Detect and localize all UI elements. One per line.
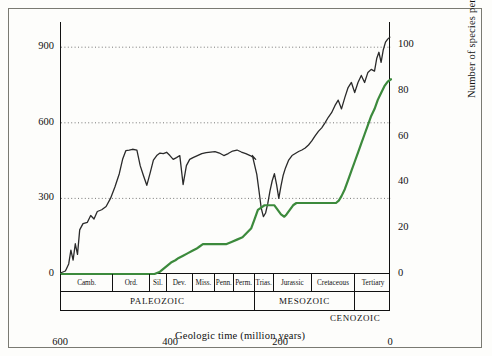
y-right-tick-100: 100 <box>398 38 414 49</box>
data-series-layer <box>61 37 391 274</box>
period-cell: Perm. <box>234 274 255 291</box>
y-right-tick-20: 20 <box>398 221 409 232</box>
period-cell: Tertiary <box>355 274 391 291</box>
plot-area <box>60 22 390 274</box>
y-right-tick-80: 80 <box>398 84 409 95</box>
geologic-period-band: Camb.Ord.Sil.Dev.Miss.Penn.Perm.Trias.Ju… <box>60 274 390 292</box>
x-tick-400: 400 <box>157 336 183 347</box>
period-cell: Penn. <box>215 274 234 291</box>
period-cell: Ord. <box>113 274 150 291</box>
gridlines <box>61 47 391 198</box>
period-cell: Jurassic <box>274 274 312 291</box>
y-axis-right-title: Number of species per flora <box>466 0 477 98</box>
chart-figure: Number of families Number of species per… <box>0 0 492 356</box>
x-tick-200: 200 <box>267 336 293 347</box>
y-left-tick-0: 0 <box>20 267 54 278</box>
period-cell: Camb. <box>61 274 113 291</box>
series-line-1 <box>61 37 390 273</box>
y-left-tick-300: 300 <box>20 191 54 202</box>
geologic-era-band: PALEOZOICMESOZOIC <box>60 292 390 311</box>
period-cell: Miss. <box>193 274 215 291</box>
y-right-tick-60: 60 <box>398 130 409 141</box>
period-cell: Sil. <box>150 274 167 291</box>
x-tick-0: 0 <box>377 336 403 347</box>
period-cell: Dev. <box>167 274 193 291</box>
period-cell: Cretaceous <box>312 274 355 291</box>
x-tick-600: 600 <box>47 336 73 347</box>
era-cell: PALEOZOIC <box>61 292 255 310</box>
period-cell: Trias. <box>255 274 274 291</box>
y-right-tick-0: 0 <box>398 267 403 278</box>
cenozoic-label: CENOZOIC <box>330 313 380 323</box>
era-cell: MESOZOIC <box>255 292 356 310</box>
y-left-tick-900: 900 <box>20 40 54 51</box>
y-right-tick-40: 40 <box>398 175 409 186</box>
era-cell <box>355 292 391 310</box>
chart-canvas <box>61 22 391 274</box>
y-left-tick-600: 600 <box>20 116 54 127</box>
